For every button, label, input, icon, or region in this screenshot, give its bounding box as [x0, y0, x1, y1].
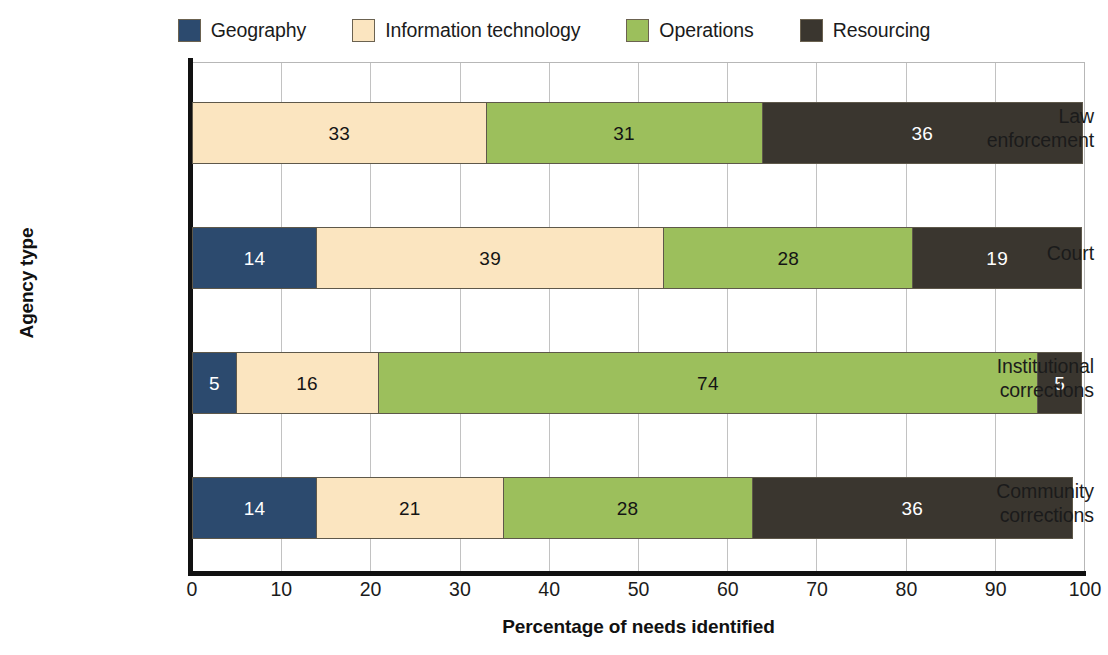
bar-segment-operations: 28	[503, 477, 753, 539]
bar-segment-value: 74	[697, 374, 719, 393]
x-tick-label-30: 30	[449, 578, 471, 601]
x-tick-label-0: 0	[187, 578, 198, 601]
bar-segment-value: 16	[296, 374, 318, 393]
legend-item-information-technology: Information technology	[352, 19, 580, 42]
bar-segment-value: 36	[901, 499, 923, 518]
legend-label-resourcing: Resourcing	[833, 19, 931, 42]
legend-swatch-information-technology	[352, 19, 375, 42]
bar-segment-value: 31	[613, 124, 635, 143]
category-label-institutional-corrections: Institutional corrections	[924, 354, 1094, 402]
x-tick-label-90: 90	[985, 578, 1007, 601]
legend-item-operations: Operations	[626, 19, 753, 42]
bar-segment-value: 21	[399, 499, 421, 518]
bar-segment-value: 14	[244, 499, 266, 518]
x-tick-label-60: 60	[717, 578, 739, 601]
legend-label-information-technology: Information technology	[385, 19, 580, 42]
y-axis-title: Agency type	[16, 203, 38, 363]
bar-segment-geography: 14	[192, 227, 317, 289]
category-label-line2: enforcement	[924, 128, 1094, 152]
bar-segment-it: 21	[316, 477, 504, 539]
x-axis-title: Percentage of needs identified	[192, 616, 1085, 638]
legend-swatch-resourcing	[800, 19, 823, 42]
bar-segment-value: 28	[617, 499, 639, 518]
bar-segment-it: 39	[316, 227, 664, 289]
bar-segment-value: 28	[777, 249, 799, 268]
legend-swatch-geography	[178, 19, 201, 42]
bar-segment-operations: 28	[663, 227, 913, 289]
bar-segment-it: 33	[192, 102, 487, 164]
category-label-line1: Community	[996, 480, 1094, 502]
chart-legend: Geography Information technology Operati…	[0, 8, 1108, 52]
x-tick-label-70: 70	[806, 578, 828, 601]
x-axis-tick-labels: 0102030405060708090100	[192, 578, 1085, 608]
bar-segment-geography: 14	[192, 477, 317, 539]
category-label-line2: corrections	[924, 378, 1094, 402]
bar-segment-value: 39	[479, 249, 501, 268]
bar-segment-geography: 5	[192, 352, 237, 414]
legend-item-geography: Geography	[178, 19, 307, 42]
legend-item-resourcing: Resourcing	[800, 19, 931, 42]
category-label-line2: corrections	[924, 503, 1094, 527]
bar-segment-value: 33	[328, 124, 350, 143]
category-label-line1: Court	[1047, 242, 1094, 264]
x-tick-label-50: 50	[628, 578, 650, 601]
x-tick-label-10: 10	[270, 578, 292, 601]
bar-segment-operations: 31	[486, 102, 763, 164]
legend-label-geography: Geography	[211, 19, 307, 42]
x-tick-label-80: 80	[896, 578, 918, 601]
category-label-law-enforcement: Law enforcement	[924, 104, 1094, 152]
category-label-court: Court	[924, 241, 1094, 265]
legend-swatch-operations	[626, 19, 649, 42]
category-label-community-corrections: Community corrections	[924, 479, 1094, 527]
bar-segment-value: 5	[209, 374, 220, 393]
x-tick-label-20: 20	[360, 578, 382, 601]
legend-label-operations: Operations	[659, 19, 753, 42]
category-label-line1: Institutional	[997, 355, 1094, 377]
bar-segment-it: 16	[236, 352, 379, 414]
bar-segment-value: 14	[244, 249, 266, 268]
x-tick-label-40: 40	[538, 578, 560, 601]
x-tick-label-100: 100	[1069, 578, 1102, 601]
category-label-line1: Law	[1059, 105, 1094, 127]
